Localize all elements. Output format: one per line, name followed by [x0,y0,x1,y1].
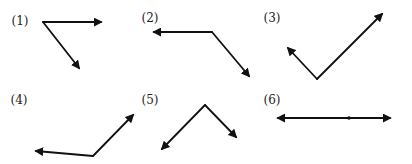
angle-panel-6: (6) [264,93,391,120]
ray-arrow-icon [288,48,317,79]
angle-panel-2: (2) [142,11,250,76]
panel-label: (1) [12,14,29,28]
ray-arrow-icon [212,32,249,76]
ray-arrow-icon [205,105,236,137]
angle-panel-3: (3) [264,11,383,79]
ray-arrow-icon [43,22,79,68]
ray-arrow-icon [162,105,205,149]
panel-label: (5) [142,93,159,107]
panel-label: (6) [264,93,281,107]
panel-label: (3) [264,11,281,25]
ray-arrow-icon [93,115,133,156]
angle-panel-1: (1) [12,14,102,68]
panel-label: (2) [142,11,159,25]
ray-arrow-icon [36,151,93,156]
angle-panel-5: (5) [142,93,237,149]
angles-figure: (1)(2)(3)(4)(5)(6) [0,0,412,164]
vertex-dot-icon [347,116,351,120]
angle-panels: (1)(2)(3)(4)(5)(6) [11,11,391,156]
panel-label: (4) [11,93,28,107]
ray-arrow-icon [317,14,382,79]
angle-panel-4: (4) [11,93,134,156]
